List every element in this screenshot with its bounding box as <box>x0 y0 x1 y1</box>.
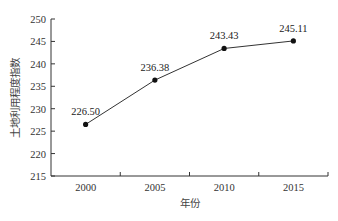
x-tick-label: 2005 <box>144 182 165 193</box>
y-tick-label: 230 <box>30 104 46 115</box>
data-value-label: 226.50 <box>71 106 100 117</box>
data-markers <box>83 38 296 127</box>
data-point-marker <box>291 38 296 43</box>
line-chart: 215220225230235240245250 200020052010201… <box>0 0 338 221</box>
data-point-marker <box>83 122 88 127</box>
series-line <box>86 41 294 124</box>
data-labels: 226.50236.38243.43245.11 <box>71 23 307 117</box>
data-value-label: 243.43 <box>210 30 239 41</box>
y-axis-title: 土地利用程度指数 <box>9 57 21 138</box>
y-tick-label: 225 <box>30 126 46 137</box>
data-point-marker <box>152 77 157 82</box>
y-tick-label: 240 <box>30 59 46 70</box>
x-tick-label: 2010 <box>214 182 235 193</box>
x-tick-label: 2000 <box>75 182 96 193</box>
data-value-label: 245.11 <box>279 23 308 34</box>
y-tick-label: 235 <box>30 81 46 92</box>
data-value-label: 236.38 <box>140 62 169 73</box>
y-tick-label: 250 <box>30 14 46 25</box>
data-point-marker <box>222 46 227 51</box>
y-tick-label: 215 <box>30 171 46 182</box>
x-ticks: 2000200520102015 <box>75 172 328 193</box>
x-axis-title: 年份 <box>180 197 201 209</box>
x-tick-label: 2015 <box>283 182 304 193</box>
y-tick-label: 245 <box>30 36 46 47</box>
y-tick-label: 220 <box>30 149 46 160</box>
